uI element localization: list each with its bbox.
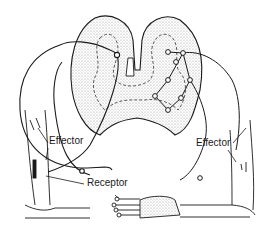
receptor-label: Receptor (87, 178, 128, 188)
right-arm (180, 120, 255, 217)
hand (112, 196, 180, 218)
spinal-cord-section (71, 16, 202, 135)
effector-label-left: Effector (49, 136, 83, 146)
effector-label-right: Effector (196, 138, 230, 148)
reflex-arc-diagram (0, 0, 274, 233)
